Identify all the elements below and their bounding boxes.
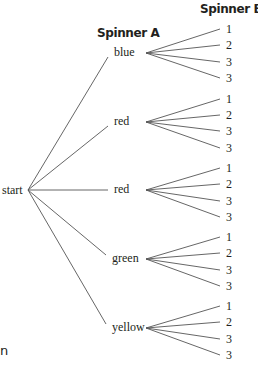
- branch-red-to-3: [146, 122, 220, 131]
- branch-start-to-blue: [28, 57, 108, 190]
- spinner-b-header: Spinner B: [200, 3, 258, 15]
- branch-blue-to-3: [146, 53, 220, 62]
- branch-red-to-3: [146, 190, 220, 201]
- spinner-b-outcome: 2: [226, 178, 232, 190]
- spinner-b-outcome: 2: [226, 39, 232, 51]
- spinner-b-outcome: 1: [226, 23, 232, 35]
- branch-yellow-to-3: [146, 328, 220, 339]
- spinner-a-node-red: red: [114, 115, 129, 127]
- branch-green-to-3: [146, 259, 220, 286]
- branch-green-to-3: [146, 259, 220, 270]
- spinner-b-outcome: 3: [226, 195, 232, 207]
- spinner-b-outcome: 3: [226, 333, 232, 345]
- spinner-b-outcome: 1: [226, 231, 232, 243]
- spinner-b-outcome: 1: [226, 93, 232, 105]
- spinner-b-outcome: 2: [226, 316, 232, 328]
- cropped-text-fragment: n: [0, 344, 8, 357]
- spinner-a-node-yellow: yellow: [112, 321, 145, 333]
- start-node-label: start: [2, 184, 23, 196]
- spinner-a-node-red: red: [114, 183, 129, 195]
- spinner-b-outcome: 3: [226, 125, 232, 137]
- spinner-a-node-green: green: [112, 252, 139, 264]
- spinner-b-outcome: 2: [226, 109, 232, 121]
- branch-start-to-red: [28, 126, 108, 190]
- spinner-b-outcome: 3: [226, 349, 232, 361]
- branch-blue-to-3: [146, 53, 220, 78]
- spinner-b-outcome: 2: [226, 247, 232, 259]
- branch-start-to-yellow: [28, 190, 106, 324]
- spinner-a-node-blue: blue: [114, 46, 135, 58]
- spinner-b-outcome: 1: [226, 300, 232, 312]
- spinner-b-outcome: 3: [226, 211, 232, 223]
- spinner-b-outcome: 3: [226, 56, 232, 68]
- branch-yellow-to-3: [146, 328, 220, 355]
- spinner-b-outcome: 1: [226, 162, 232, 174]
- spinner-b-outcome: 3: [226, 280, 232, 292]
- spinner-b-outcome: 3: [226, 142, 232, 154]
- branch-red-to-3: [146, 122, 220, 148]
- spinner-a-header: Spinner A: [97, 27, 159, 39]
- branch-start-to-green: [28, 190, 106, 255]
- spinner-b-outcome: 3: [226, 72, 232, 84]
- spinner-b-outcome: 3: [226, 264, 232, 276]
- branch-red-to-3: [146, 190, 220, 217]
